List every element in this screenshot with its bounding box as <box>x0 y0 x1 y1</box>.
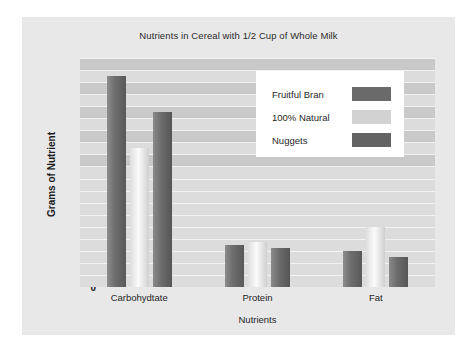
gridline <box>80 58 435 59</box>
bar-carbohydtate-fruitful-bran <box>107 76 126 287</box>
bar-fat-100-natural <box>366 227 385 287</box>
bar-carbohydtate-nuggets <box>153 112 172 287</box>
legend-color-swatch <box>352 110 391 124</box>
y-axis-title: Grams of Nutrient <box>46 100 57 250</box>
bar-fat-nuggets <box>389 257 408 287</box>
legend-item-label: 100% Natural <box>272 112 330 123</box>
legend: Fruitful Bran100% NaturalNuggets <box>256 71 404 157</box>
chart-title: Nutrients in Cereal with 1/2 Cup of Whol… <box>22 30 455 41</box>
x-axis-tick-label: Carbohydtate <box>111 292 168 303</box>
bar-fat-fruitful-bran <box>343 251 362 287</box>
bar-carbohydtate-100-natural <box>130 148 149 287</box>
legend-item[interactable]: Nuggets <box>256 127 404 153</box>
bar-protein-nuggets <box>271 248 290 287</box>
x-axis-title: Nutrients <box>80 314 435 325</box>
x-axis-tick-labels: CarbohydtateProteinFat <box>80 292 435 308</box>
legend-color-swatch <box>352 133 391 147</box>
bar-protein-fruitful-bran <box>225 245 244 287</box>
chart-canvas: Nutrients in Cereal with 1/2 Cup of Whol… <box>22 17 455 335</box>
x-axis-tick-label: Protein <box>242 292 272 303</box>
legend-item-label: Fruitful Bran <box>272 89 324 100</box>
legend-item-label: Nuggets <box>272 135 307 146</box>
legend-color-swatch <box>352 87 391 101</box>
bar-protein-100-natural <box>248 242 267 287</box>
x-axis-tick-label: Fat <box>369 292 383 303</box>
plot-band <box>80 58 435 70</box>
